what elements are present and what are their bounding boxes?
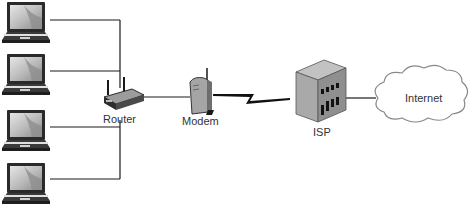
router-label: Router [103, 113, 136, 125]
laptop-3 [2, 110, 50, 151]
internet-label: Internet [405, 92, 442, 104]
laptop-2 [2, 54, 50, 95]
router-device [104, 77, 144, 110]
diagram-canvas [0, 0, 474, 220]
laptop-4 [2, 163, 50, 204]
isp-building [296, 60, 346, 122]
modem-label: Modem [182, 115, 219, 127]
modem-device [190, 68, 214, 115]
network-diagram: Router Modem ISP Internet [0, 0, 474, 220]
isp-label: ISP [313, 126, 331, 138]
laptop-1 [2, 2, 50, 43]
wan-lightning-link [213, 94, 290, 104]
